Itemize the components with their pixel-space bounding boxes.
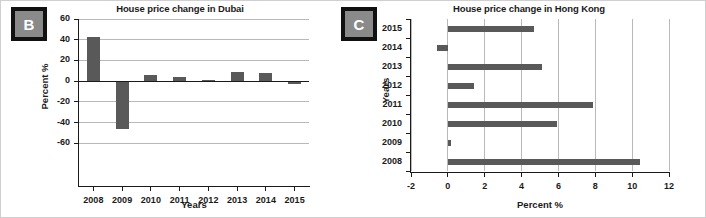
x-tick — [237, 186, 238, 191]
gridline-vertical — [595, 19, 596, 171]
gridline-vertical — [447, 19, 448, 171]
bar-2008 — [448, 159, 640, 165]
chart-dubai-plot-area: 6040200-20-40-60200820092010201120122013… — [79, 19, 309, 164]
gridline-horizontal — [79, 19, 309, 20]
x-tick-label: 8 — [581, 181, 609, 191]
y-tick-label: 2008 — [382, 156, 402, 166]
x-tick-label: 4 — [508, 181, 536, 191]
figure-panels-b-and-c: B C House price change in Dubai 6040200-… — [0, 0, 706, 218]
x-tick — [150, 186, 151, 191]
x-axis-line — [410, 172, 670, 173]
x-tick — [265, 186, 266, 191]
gridline-horizontal — [79, 60, 309, 61]
x-tick-label: 6 — [544, 181, 572, 191]
gridline-horizontal — [79, 101, 309, 102]
x-tick — [122, 186, 123, 191]
gridline-vertical — [521, 19, 522, 171]
x-tick — [208, 186, 209, 191]
y-axis-line — [78, 19, 79, 186]
y-tick-label: 2014 — [382, 42, 402, 52]
chart-dubai-yaxis-title: Percent % — [39, 56, 50, 118]
chart-dubai: House price change in Dubai 6040200-20-4… — [35, 3, 325, 217]
bar-2013 — [448, 64, 542, 70]
x-tick-label: -2 — [397, 181, 425, 191]
chart-hong-kong-yaxis-title: Years — [380, 61, 391, 121]
x-tick-label: 10 — [618, 181, 646, 191]
y-tick-label: -60 — [57, 137, 70, 147]
bar-2008 — [87, 37, 100, 82]
gridline-horizontal — [79, 39, 309, 40]
gridline-horizontal — [79, 143, 309, 144]
bar-2014 — [437, 45, 448, 51]
bar-2009 — [116, 81, 129, 129]
y-tick-label: 2009 — [382, 137, 402, 147]
bar-2011 — [448, 102, 594, 108]
x-tick — [93, 186, 94, 191]
y-tick-label: 60 — [60, 13, 70, 23]
gridline-horizontal — [79, 81, 309, 82]
gridline-vertical — [669, 19, 670, 171]
chart-dubai-title: House price change in Dubai — [35, 3, 325, 14]
y-tick-label: 2015 — [382, 23, 402, 33]
gridline-vertical — [632, 19, 633, 171]
gridline-vertical — [558, 19, 559, 171]
gridline-vertical — [411, 19, 412, 171]
x-axis-line — [78, 186, 310, 187]
gridline-horizontal — [79, 122, 309, 123]
x-tick-label: 0 — [434, 181, 462, 191]
y-tick-label: 0 — [65, 75, 70, 85]
y-tick-label: -40 — [57, 117, 70, 127]
y-tick-label: 40 — [60, 34, 70, 44]
x-tick — [179, 186, 180, 191]
chart-hong-kong-xaxis-title: Percent % — [411, 199, 669, 210]
bar-2012 — [448, 83, 474, 89]
bar-2015 — [448, 26, 535, 32]
bar-2009 — [448, 140, 451, 146]
gridline-vertical — [484, 19, 485, 171]
chart-dubai-xaxis-title: Years — [79, 199, 309, 210]
x-tick-label: 2 — [471, 181, 499, 191]
chart-hong-kong-title: House price change in Hong Kong — [353, 3, 705, 14]
bar-2010 — [448, 121, 557, 127]
x-tick — [294, 186, 295, 191]
chart-hong-kong: House price change in Hong Kong -2024681… — [353, 3, 705, 217]
y-tick-label: -20 — [57, 96, 70, 106]
chart-hong-kong-plot-area: -202468101220152014201320122011201020092… — [411, 19, 669, 171]
y-tick-label: 20 — [60, 54, 70, 64]
x-tick-label: 12 — [655, 181, 683, 191]
